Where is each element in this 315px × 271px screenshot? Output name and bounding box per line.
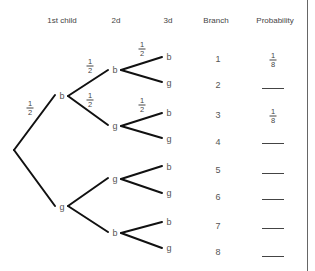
leaf-8: g — [166, 243, 171, 253]
header-probability: Probability — [256, 16, 293, 25]
probability-blank-4[interactable] — [262, 143, 284, 144]
prob-fraction-bb-b: 12 — [139, 41, 146, 58]
prob-fraction-b-b: 12 — [87, 58, 94, 75]
branch-number-7: 7 — [215, 221, 220, 231]
leaf-1: b — [166, 52, 171, 62]
prob-fraction-b-g: 12 — [87, 92, 94, 109]
node-l1-g: g — [59, 202, 64, 212]
header-3d: 3d — [164, 16, 173, 25]
leaf-2: g — [166, 78, 171, 88]
header-branch: Branch — [203, 16, 228, 25]
probability-branch-3: 18 — [270, 108, 277, 125]
node-l2-g: g — [112, 121, 117, 131]
probability-blank-6[interactable] — [262, 199, 284, 200]
branch-number-2: 2 — [215, 80, 220, 90]
leaf-7: b — [166, 217, 171, 227]
probability-blank-8[interactable] — [262, 256, 284, 257]
probability-blank-5[interactable] — [262, 173, 284, 174]
leaf-5: b — [166, 162, 171, 172]
branch-number-4: 4 — [215, 137, 220, 147]
header-1st-child: 1st child — [47, 16, 76, 25]
node-l1-b: b — [59, 91, 64, 101]
branch-number-5: 5 — [215, 165, 220, 175]
prob-fraction-root-b: 12 — [27, 100, 34, 117]
node-l2-b: b — [112, 228, 117, 238]
probability-blank-7[interactable] — [262, 228, 284, 229]
probability-branch-1: 18 — [270, 52, 277, 69]
branch-number-1: 1 — [215, 54, 220, 64]
probability-blank-2[interactable] — [262, 88, 284, 89]
prob-fraction-bg-b: 12 — [139, 97, 146, 114]
leaf-6: g — [166, 188, 171, 198]
tree-lines — [0, 0, 315, 271]
leaf-3: b — [166, 108, 171, 118]
probability-tree-diagram: 1st child 2d 3d Branch Probability b g b… — [0, 0, 315, 271]
branch-number-6: 6 — [215, 192, 220, 202]
branch-number-8: 8 — [215, 247, 220, 257]
header-2d: 2d — [112, 16, 121, 25]
page-border — [307, 0, 308, 271]
branch-number-3: 3 — [215, 110, 220, 120]
node-l2-b: b — [112, 65, 117, 75]
leaf-4: g — [166, 134, 171, 144]
node-l2-g: g — [112, 174, 117, 184]
